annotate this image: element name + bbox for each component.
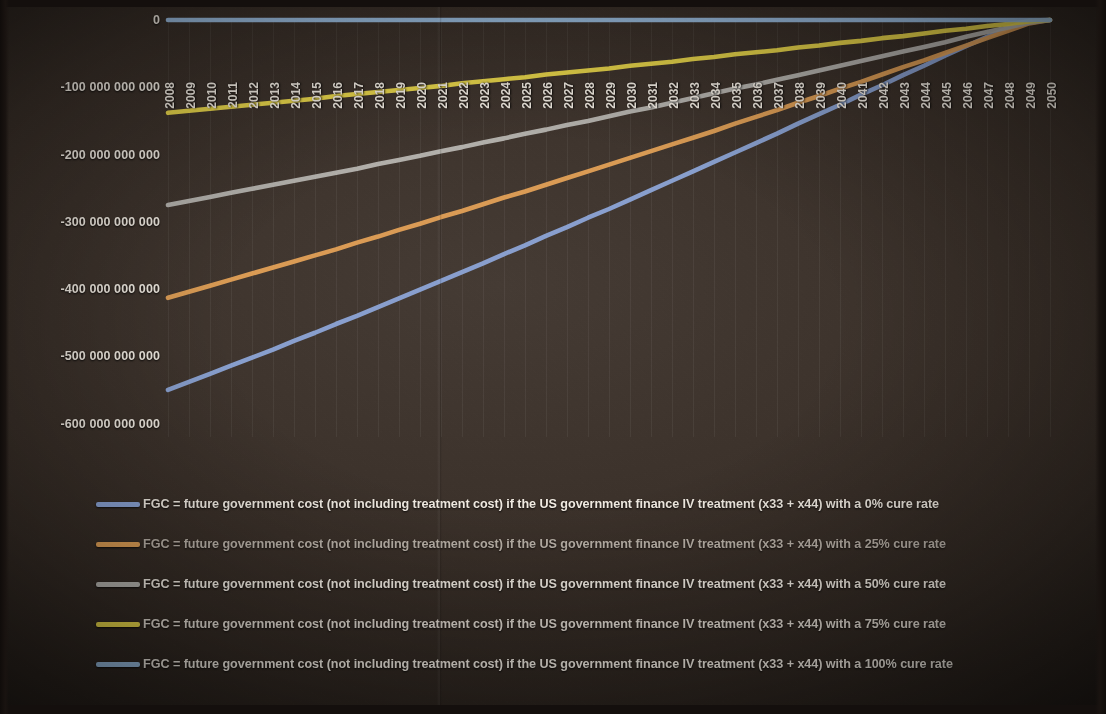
legend-label: FGC = future government cost (not includ… xyxy=(143,617,946,631)
legend-label: FGC = future government cost (not includ… xyxy=(143,577,946,591)
x-tick-label: 2032 xyxy=(667,82,681,109)
x-tick-label: 2024 xyxy=(499,82,513,109)
x-tick-label: 2042 xyxy=(877,82,891,109)
x-tick-label: 2049 xyxy=(1024,82,1038,109)
page-edge-top xyxy=(0,0,1106,7)
x-tick-label: 2039 xyxy=(814,82,828,109)
legend-item: FGC = future government cost (not includ… xyxy=(96,484,1081,524)
x-tick-label: 2050 xyxy=(1045,82,1059,109)
x-tick-label: 2012 xyxy=(247,82,261,109)
x-tick-label: 2040 xyxy=(835,82,849,109)
legend-swatch-icon xyxy=(96,582,140,587)
y-tick-label: -300 000 000 000 xyxy=(60,215,160,229)
x-tick-label: 2022 xyxy=(457,82,471,109)
x-tick-label: 2015 xyxy=(310,82,324,109)
x-tick-label: 2021 xyxy=(436,82,450,109)
x-tick-label: 2025 xyxy=(520,82,534,109)
x-tick-label: 2029 xyxy=(604,82,618,109)
y-tick-label: -100 000 000 000 xyxy=(60,80,160,94)
x-tick-label: 2009 xyxy=(184,82,198,109)
x-tick-label: 2027 xyxy=(562,82,576,109)
page-edge-right xyxy=(1095,0,1106,714)
x-tick-label: 2045 xyxy=(940,82,954,109)
x-tick-label: 2044 xyxy=(919,82,933,109)
y-tick-label: 0 xyxy=(153,13,160,27)
chart-photo: 0-100 000 000 000-200 000 000 000-300 00… xyxy=(0,0,1106,714)
legend-label: FGC = future government cost (not includ… xyxy=(143,537,946,551)
x-tick-label: 2037 xyxy=(772,82,786,109)
x-tick-label: 2008 xyxy=(163,82,177,109)
x-tick-label: 2033 xyxy=(688,82,702,109)
legend-item: FGC = future government cost (not includ… xyxy=(96,524,1081,564)
y-axis: 0-100 000 000 000-200 000 000 000-300 00… xyxy=(0,20,160,437)
y-tick-label: -200 000 000 000 xyxy=(60,148,160,162)
x-tick-label: 2047 xyxy=(982,82,996,109)
x-tick-label: 2019 xyxy=(394,82,408,109)
x-tick-label: 2013 xyxy=(268,82,282,109)
x-tick-label: 2035 xyxy=(730,82,744,109)
legend-label: FGC = future government cost (not includ… xyxy=(143,657,953,671)
x-tick-label: 2041 xyxy=(856,82,870,109)
y-tick-label: -600 000 000 000 xyxy=(60,417,160,431)
x-tick-label: 2043 xyxy=(898,82,912,109)
x-tick-label: 2017 xyxy=(352,82,366,109)
x-tick-label: 2023 xyxy=(478,82,492,109)
page-edge-bottom xyxy=(0,705,1106,714)
x-tick-label: 2046 xyxy=(961,82,975,109)
x-tick-label: 2020 xyxy=(415,82,429,109)
legend-item: FGC = future government cost (not includ… xyxy=(96,604,1081,644)
x-tick-label: 2016 xyxy=(331,82,345,109)
x-tick-label: 2030 xyxy=(625,82,639,109)
legend-label: FGC = future government cost (not includ… xyxy=(143,497,939,511)
x-tick-label: 2014 xyxy=(289,82,303,109)
legend-swatch-icon xyxy=(96,502,140,507)
x-tick-label: 2010 xyxy=(205,82,219,109)
y-tick-label: -500 000 000 000 xyxy=(60,349,160,363)
legend-swatch-icon xyxy=(96,622,140,627)
x-axis: 2008200920102011201220132014201520162017… xyxy=(168,26,1050,86)
x-tick-label: 2034 xyxy=(709,82,723,109)
chart-legend: FGC = future government cost (not includ… xyxy=(96,484,1081,684)
x-tick-label: 2011 xyxy=(226,82,240,108)
legend-item: FGC = future government cost (not includ… xyxy=(96,644,1081,684)
legend-swatch-icon xyxy=(96,662,140,667)
y-tick-label: -400 000 000 000 xyxy=(60,282,160,296)
legend-item: FGC = future government cost (not includ… xyxy=(96,564,1081,604)
x-tick-label: 2018 xyxy=(373,82,387,109)
x-tick-label: 2048 xyxy=(1003,82,1017,109)
legend-swatch-icon xyxy=(96,542,140,547)
x-tick-label: 2028 xyxy=(583,82,597,109)
x-tick-label: 2036 xyxy=(751,82,765,109)
x-tick-label: 2031 xyxy=(646,82,660,109)
x-tick-label: 2038 xyxy=(793,82,807,109)
x-tick-label: 2026 xyxy=(541,82,555,109)
